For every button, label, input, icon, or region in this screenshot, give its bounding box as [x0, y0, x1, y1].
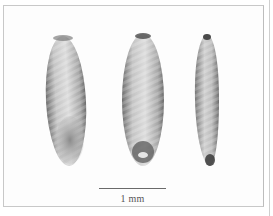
seed-3-tip [205, 154, 215, 166]
specimens-image [0, 0, 273, 216]
scale-bar-label: 1 mm [99, 193, 166, 204]
seed-2 [122, 33, 164, 166]
scale-bar [99, 188, 166, 189]
seed-1-embryo-region [56, 116, 84, 164]
seed-1 [43, 35, 90, 167]
seed-3 [195, 34, 219, 166]
